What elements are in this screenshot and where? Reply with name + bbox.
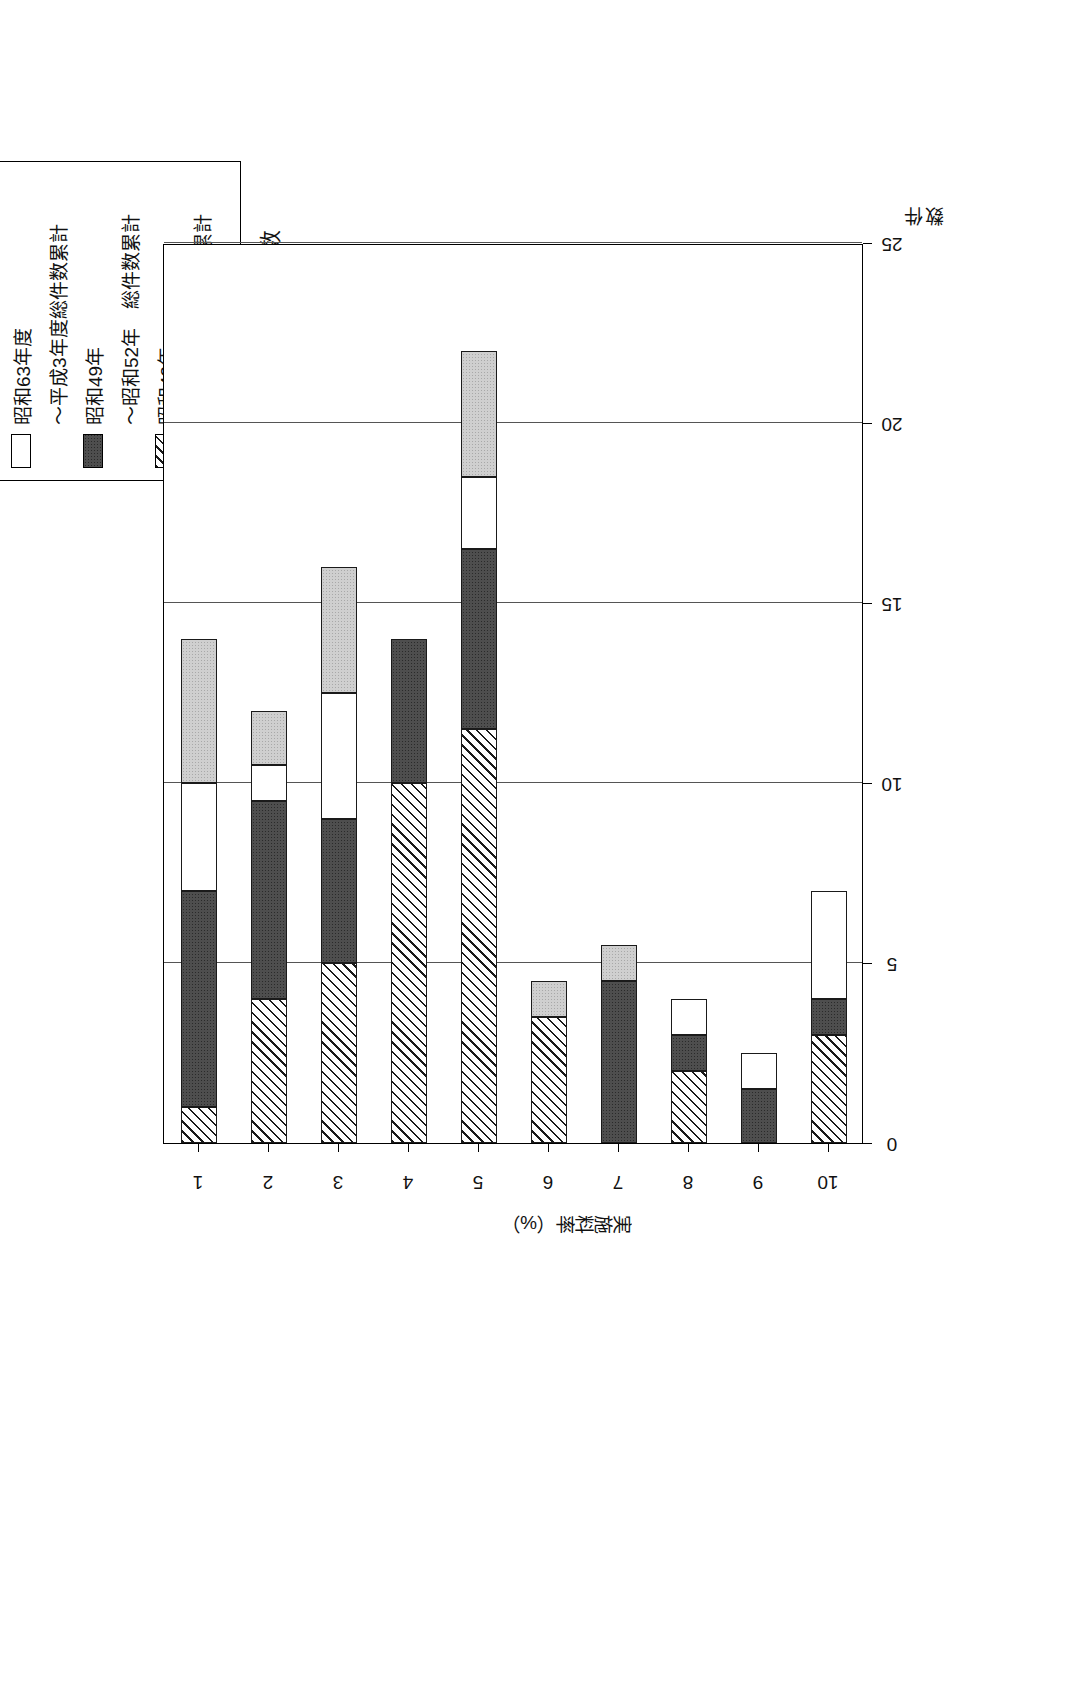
bar-row	[321, 245, 357, 1143]
bar-segment	[671, 1071, 707, 1143]
bar-segment	[601, 981, 637, 1143]
category-axis-tick-label: 6	[528, 1171, 568, 1193]
bar-row	[461, 245, 497, 1143]
category-axis-tick-label: 4	[388, 1171, 428, 1193]
category-axis-tick-label: 1	[178, 1171, 218, 1193]
category-axis-tick-label: 2	[248, 1171, 288, 1193]
bar-segment	[461, 729, 497, 1143]
bar-row	[181, 245, 217, 1143]
bar-row	[391, 245, 427, 1143]
bar-segment	[321, 963, 357, 1143]
category-axis-tick-label: 10	[808, 1171, 848, 1193]
value-axis-tick-label: 15	[862, 593, 922, 615]
value-axis-tick-label: 25	[862, 233, 922, 255]
legend-item-label: 昭和63年度	[8, 328, 35, 425]
bar-segment	[181, 783, 217, 891]
bar-segment	[601, 945, 637, 981]
category-axis-tick	[758, 1144, 759, 1152]
bar-segment	[811, 891, 847, 999]
bar-segment	[811, 1035, 847, 1143]
category-axis-tick	[688, 1144, 689, 1152]
bar-row	[251, 245, 287, 1143]
bar-segment	[461, 549, 497, 729]
category-axis-tick-label: 8	[668, 1171, 708, 1193]
bar-segment	[391, 783, 427, 1143]
category-axis-tick	[408, 1144, 409, 1152]
bar-segment	[391, 639, 427, 783]
value-axis-tick-label: 0	[862, 1133, 922, 1155]
category-axis-tick-label: 3	[318, 1171, 358, 1193]
category-axis-tick	[478, 1144, 479, 1152]
category-axis-tick	[618, 1144, 619, 1152]
category-axis-tick-label: 5	[458, 1171, 498, 1193]
bar-segment	[181, 1107, 217, 1143]
bar-segment	[531, 981, 567, 1017]
legend-spacer-icon	[47, 434, 67, 468]
bar-segment	[321, 819, 357, 963]
value-axis-title: 件数	[905, 207, 945, 226]
legend-swatch-dark-icon	[83, 434, 103, 468]
legend-item: ～平成10年度総件数累計	[0, 174, 2, 468]
bar-segment	[461, 477, 497, 549]
bar-segment	[321, 567, 357, 693]
gridline	[164, 242, 862, 243]
bar-row	[671, 245, 707, 1143]
bar-segment	[461, 351, 497, 477]
category-axis-tick	[548, 1144, 549, 1152]
legend-item-label: ～平成3年度総件数累計	[44, 224, 71, 425]
legend-item-label: 昭和49年	[80, 347, 107, 425]
bar-segment	[251, 711, 287, 765]
bar-segment	[741, 1053, 777, 1089]
value-axis-tick-label: 10	[862, 773, 922, 795]
category-axis-title: 実施料率（%）	[501, 1212, 632, 1236]
bar-row	[601, 245, 637, 1143]
bar-row	[811, 245, 847, 1143]
legend-item: 昭和63年度	[4, 174, 38, 468]
legend-swatch-white-icon	[11, 434, 31, 468]
legend-spacer-icon	[119, 434, 139, 468]
bar-segment	[671, 999, 707, 1035]
category-axis-tick	[268, 1144, 269, 1152]
bar-segment	[181, 891, 217, 1107]
value-axis-tick-label: 20	[862, 413, 922, 435]
category-axis-tick	[338, 1144, 339, 1152]
bar-segment	[811, 999, 847, 1035]
category-axis-tick	[828, 1144, 829, 1152]
bar-row	[531, 245, 567, 1143]
bar-row	[741, 245, 777, 1143]
bar-segment	[531, 1017, 567, 1143]
plot-frame	[163, 244, 863, 1144]
value-axis-tick-label: 5	[862, 953, 922, 975]
category-axis-tick	[198, 1144, 199, 1152]
bar-segment	[251, 801, 287, 999]
category-axis-tick-label: 7	[598, 1171, 638, 1193]
legend-item: ～平成3年度総件数累計	[40, 174, 74, 468]
bar-segment	[671, 1035, 707, 1071]
figure-page: 図2－17－2 発送電・配電・産業用電気機械（イニシャル 無）の実施料率別契約件…	[0, 0, 1068, 1699]
bar-segment	[741, 1089, 777, 1143]
bar-segment	[251, 765, 287, 801]
bar-segment	[181, 639, 217, 783]
chart-plot-area: 0510152025 12345678910 件数 実施料率（%）	[139, 146, 929, 1244]
bar-segment	[321, 693, 357, 819]
category-axis-tick-label: 9	[738, 1171, 778, 1193]
bar-segment	[251, 999, 287, 1143]
legend-item: 昭和49年	[76, 174, 110, 468]
